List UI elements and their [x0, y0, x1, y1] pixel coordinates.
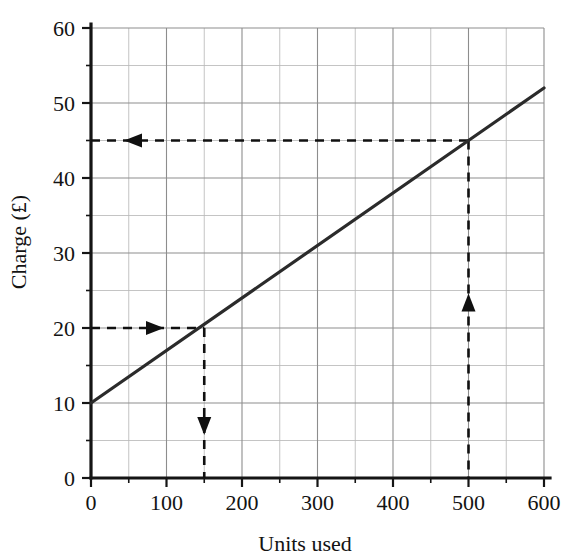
chart-container: 0100200300400500600 0102030405060 Units …: [0, 0, 577, 560]
y-tick-label: 30: [53, 241, 75, 266]
x-axis-title: Units used: [258, 531, 352, 556]
y-tick-label: 0: [64, 466, 75, 491]
x-tick-label: 0: [86, 490, 97, 515]
chart-background: [0, 0, 577, 560]
x-tick-label: 100: [150, 490, 183, 515]
y-tick-label: 60: [53, 16, 75, 41]
x-tick-label: 600: [528, 490, 561, 515]
x-tick-label: 500: [452, 490, 485, 515]
x-tick-label: 400: [377, 490, 410, 515]
x-tick-label: 300: [301, 490, 334, 515]
y-tick-label: 40: [53, 166, 75, 191]
x-tick-label: 200: [226, 490, 259, 515]
line-chart: 0100200300400500600 0102030405060 Units …: [0, 0, 577, 560]
y-tick-label: 50: [53, 91, 75, 116]
y-tick-label: 10: [53, 391, 75, 416]
y-tick-label: 20: [53, 316, 75, 341]
y-axis-title: Charge (£): [6, 195, 31, 289]
